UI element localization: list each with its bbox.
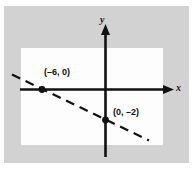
y-axis-label: y [100, 15, 104, 25]
x-axis-label: x [176, 83, 181, 93]
point-label-y-intercept: (0, –2) [113, 108, 139, 117]
graph-drawing [0, 0, 194, 169]
point-marker-y-intercept [102, 117, 109, 124]
point-marker-x-intercept [39, 86, 46, 93]
figure-container: y x (–6, 0) (0, –2) [0, 0, 194, 169]
point-label-x-intercept: (–6, 0) [44, 68, 70, 77]
